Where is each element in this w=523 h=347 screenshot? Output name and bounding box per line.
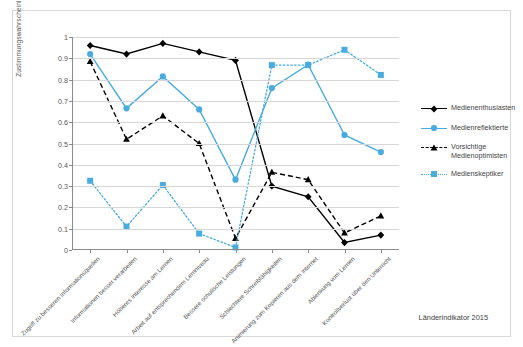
legend-label: Medienreflektierte xyxy=(451,123,508,133)
y-tick-mark xyxy=(69,37,72,38)
series-line xyxy=(90,61,381,238)
y-tick-label: 0.3 xyxy=(58,182,68,191)
x-tick-mark xyxy=(272,250,273,253)
gridline xyxy=(72,144,399,145)
legend-key-circle-icon xyxy=(421,123,447,134)
series-medienskeptiker xyxy=(87,47,384,251)
y-axis-title: Zustimmungswahrscheinlichkeiten xyxy=(15,0,22,77)
data-point-diamond xyxy=(431,105,438,112)
gridline xyxy=(72,58,399,59)
legend-item[interactable]: Medienenthusiasten xyxy=(421,103,523,114)
gridline xyxy=(72,122,399,123)
y-tick-label: 0.6 xyxy=(58,118,68,127)
gridline xyxy=(72,80,399,81)
data-point-circle xyxy=(431,125,437,131)
gridline xyxy=(72,165,399,166)
y-tick-label: 0.8 xyxy=(58,75,68,84)
y-tick-mark xyxy=(69,186,72,187)
x-tick-mark xyxy=(127,250,128,253)
x-tick-mark xyxy=(163,250,164,253)
data-point-diamond xyxy=(123,50,130,57)
data-point-triangle xyxy=(377,212,384,218)
y-tick-label: 0.7 xyxy=(58,96,68,105)
data-point-square xyxy=(431,171,437,177)
plot-area xyxy=(72,37,399,250)
y-tick-mark xyxy=(69,101,72,102)
legend-key-square-icon xyxy=(421,169,447,180)
legend-label: Vorsichtige Medienoptimisten xyxy=(451,142,523,160)
data-point-circle xyxy=(269,85,275,91)
series-medienreflektierte xyxy=(87,51,384,183)
data-point-triangle xyxy=(268,169,275,175)
legend-item[interactable]: Medienskeptiker xyxy=(421,169,523,180)
data-point-square xyxy=(269,62,275,68)
y-tick-label: 0.2 xyxy=(58,203,68,212)
gridline xyxy=(72,101,399,102)
legend-item[interactable]: Vorsichtige Medienoptimisten xyxy=(421,142,523,160)
legend-label: Medienskeptiker xyxy=(451,169,503,179)
chart-figure: 00.10.20.30.40.50.60.70.80.91 Zustimmung… xyxy=(0,0,523,347)
data-point-diamond xyxy=(196,48,203,55)
y-tick-mark xyxy=(69,144,72,145)
x-tick-mark xyxy=(308,250,309,253)
chart-frame: 00.10.20.30.40.50.60.70.80.91 Zustimmung… xyxy=(12,10,511,337)
data-point-square xyxy=(342,47,348,53)
legend-label: Medienenthusiasten xyxy=(451,103,515,113)
data-point-square xyxy=(196,231,202,237)
legend-key-diamond-icon xyxy=(421,103,447,114)
y-tick-mark xyxy=(69,122,72,123)
y-tick-label: 0.5 xyxy=(58,139,68,148)
gridline xyxy=(72,207,399,208)
data-point-square xyxy=(160,182,166,188)
y-tick-label: 0 xyxy=(64,246,68,255)
data-point-diamond xyxy=(159,40,166,47)
data-point-circle xyxy=(341,132,347,138)
y-tick-mark xyxy=(69,58,72,59)
y-axis-title-wrap: Zustimmungswahrscheinlichkeiten xyxy=(39,37,49,250)
legend-item[interactable]: Medienreflektierte xyxy=(421,123,523,134)
y-tick-mark xyxy=(69,250,72,251)
data-point-diamond xyxy=(87,42,94,49)
y-tick-mark xyxy=(69,80,72,81)
y-tick-label: 0.4 xyxy=(58,160,68,169)
data-point-square xyxy=(305,62,311,68)
data-point-triangle xyxy=(431,144,438,150)
y-tick-mark xyxy=(69,229,72,230)
data-point-square xyxy=(378,72,384,78)
gridline xyxy=(72,229,399,230)
y-tick-label: 0.9 xyxy=(58,54,68,63)
y-axis-line xyxy=(72,37,73,250)
source-note: Länderindikator 2015 xyxy=(419,313,488,322)
x-tick-mark xyxy=(345,250,346,253)
chart-legend: MedienenthusiastenMedienreflektierteVors… xyxy=(421,103,523,188)
y-tick-mark xyxy=(69,207,72,208)
x-tick-mark xyxy=(90,250,91,253)
gridline xyxy=(72,186,399,187)
data-point-circle xyxy=(123,105,129,111)
y-tick-label: 1 xyxy=(64,33,68,42)
data-point-triangle xyxy=(159,112,166,118)
y-tick-label: 0.1 xyxy=(58,224,68,233)
x-tick-mark xyxy=(381,250,382,253)
data-point-circle xyxy=(87,51,93,57)
data-point-circle xyxy=(160,73,166,79)
data-point-circle xyxy=(378,149,384,155)
x-tick-mark xyxy=(236,250,237,253)
series-line xyxy=(90,54,381,180)
data-point-circle xyxy=(196,106,202,112)
gridline xyxy=(72,37,399,38)
data-point-circle xyxy=(232,177,238,183)
data-point-square xyxy=(87,178,93,184)
x-axis-labels: Zugriff zu besseren InformationsquellenI… xyxy=(72,255,399,325)
data-point-triangle xyxy=(123,136,130,142)
y-tick-mark xyxy=(69,165,72,166)
x-tick-mark xyxy=(199,250,200,253)
data-point-diamond xyxy=(377,231,384,238)
series-vorsichtige-medienoptimisten xyxy=(87,58,384,241)
legend-key-triangle-icon xyxy=(421,142,447,153)
